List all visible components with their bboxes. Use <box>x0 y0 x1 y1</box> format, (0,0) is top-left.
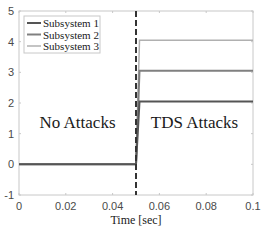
y-tick-label: 4 <box>8 36 14 48</box>
annotation-tds-attacks: TDS Attacks <box>151 113 238 132</box>
x-tick-label: 0.02 <box>55 200 76 212</box>
x-axis-label: Time [sec] <box>110 213 161 227</box>
y-tick-label: 2 <box>8 97 14 109</box>
legend-label-2: Subsystem 2 <box>43 29 99 41</box>
chart: -1012345 00.020.040.060.080.1 No Attacks… <box>0 0 266 229</box>
legend: Subsystem 1 Subsystem 2 Subsystem 3 <box>24 16 100 53</box>
y-tick-label: -1 <box>4 189 14 201</box>
legend-label-3: Subsystem 3 <box>43 40 99 52</box>
y-tick-label: 5 <box>8 5 14 17</box>
x-tick-label: 0.06 <box>149 200 170 212</box>
y-tick-label: 3 <box>8 66 14 78</box>
y-tick-label: 1 <box>8 128 14 140</box>
annotation-no-attacks: No Attacks <box>39 113 115 132</box>
x-tick-label: 0 <box>16 200 22 212</box>
x-tick-label: 0.04 <box>102 200 123 212</box>
x-tick-label: 0.1 <box>245 200 260 212</box>
x-tick-label: 0.08 <box>195 200 216 212</box>
y-tick-label: 0 <box>8 158 14 170</box>
legend-label-1: Subsystem 1 <box>43 17 99 29</box>
